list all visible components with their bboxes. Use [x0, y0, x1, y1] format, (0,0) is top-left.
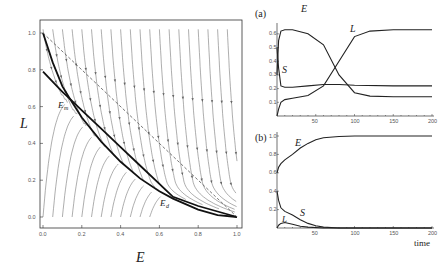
arrow-icon [55, 54, 57, 57]
streamline [101, 164, 118, 217]
y-tick-label: 0.4 [28, 140, 36, 146]
arrow-icon [221, 101, 223, 104]
arrow-icon [162, 93, 164, 96]
x-tick-label: 0.4 [117, 231, 125, 237]
arrow-icon [200, 178, 202, 181]
arrow-icon [65, 59, 67, 62]
streamline [208, 29, 236, 201]
x-tick-label: 0.2 [78, 231, 86, 237]
arrow-icon [171, 169, 173, 172]
panel-a-label: (a) [255, 8, 266, 20]
y-tick-label: 0.1 [269, 99, 277, 105]
panel-b-S-label: S [300, 207, 305, 218]
eq2-sub: d [166, 203, 170, 209]
panel-a-S-label: S [282, 64, 287, 75]
arrow-icon [230, 183, 232, 186]
time-axis-label: time [414, 238, 430, 248]
streamline [53, 116, 74, 217]
eq1-sub: m [64, 105, 69, 111]
x-tick-label: 0.0 [39, 231, 47, 237]
y-tick-label: 0.2 [28, 177, 36, 183]
streamline [198, 29, 236, 206]
streamline [62, 127, 82, 217]
arrow-icon [230, 101, 232, 104]
streamline [150, 197, 161, 217]
arrow-icon [191, 176, 193, 179]
eq2-label: E [159, 198, 166, 208]
streamline [72, 137, 91, 217]
panel-b-E-label: E [294, 137, 301, 148]
x-tick-label: 200 [428, 230, 437, 236]
vector-field [43, 29, 237, 217]
phase-xlabel: E [135, 250, 145, 265]
eq1-label: E [57, 100, 64, 110]
y-tick-label: 0.8 [269, 151, 277, 157]
y-tick-label: 0.3 [269, 71, 277, 77]
arrow-icon [128, 122, 130, 125]
series-S [277, 48, 432, 88]
x-tick-label: 50 [312, 230, 318, 236]
arrow-icon [79, 91, 81, 94]
x-tick-label: 100 [351, 118, 360, 124]
arrow-icon [152, 160, 154, 163]
arrow-icon [50, 67, 52, 70]
arrow-icon [182, 97, 184, 100]
arrow-icon [99, 105, 101, 108]
dashed-line [43, 33, 237, 217]
streamline [92, 156, 110, 217]
nullcline-curve [43, 72, 237, 217]
arrow-icon [109, 111, 111, 114]
panel-a-E-label: E [300, 3, 307, 14]
x-tick-label: 100 [351, 230, 360, 236]
figure: 0.00.00.20.20.40.40.60.60.80.81.01.0 L E… [0, 0, 448, 271]
phase-portrait: 0.00.00.20.20.40.40.60.60.80.81.01.0 L E… [19, 20, 242, 265]
y-tick-label: 1.0 [28, 30, 36, 36]
y-tick-label: 0.5 [269, 44, 277, 50]
y-tick-label: 0.2 [269, 85, 277, 91]
y-tick-label: 0.4 [269, 58, 277, 64]
x-tick-label: 1.0 [233, 231, 241, 237]
y-tick-label: 0.0 [28, 214, 36, 220]
nullclines [43, 33, 237, 217]
arrow-icon [191, 98, 193, 101]
streamline [227, 29, 237, 161]
x-tick-label: 50 [312, 118, 318, 124]
y-tick-label: 0.6 [269, 169, 277, 175]
streamline [179, 29, 235, 212]
panel-a: 501001502000.10.20.30.40.50.6 (a) E L S [255, 3, 437, 124]
equilibrium-label-d: E d [159, 198, 170, 209]
panel-b: 501001502000.20.40.60.81.0 (b) E L S tim… [255, 132, 437, 248]
x-tick-label: 200 [428, 118, 437, 124]
y-tick-label: 0.6 [28, 104, 36, 110]
y-tick-label: 0.8 [28, 67, 36, 73]
panel-a-curves [277, 30, 432, 116]
x-tick-label: 150 [389, 230, 398, 236]
arrow-icon [162, 164, 164, 167]
phase-ylabel: L [19, 116, 28, 131]
arrow-icon [181, 172, 183, 175]
y-tick-label: 1.0 [269, 133, 277, 139]
streamline [218, 29, 236, 193]
panel-b-label: (b) [255, 132, 267, 144]
x-tick-label: 0.6 [155, 231, 163, 237]
arrow-icon [85, 68, 87, 71]
arrow-icon [201, 99, 203, 102]
arrow-icon [220, 182, 222, 185]
streamline [111, 172, 127, 217]
y-tick-label: 0.2 [269, 206, 277, 212]
streamline [121, 179, 136, 217]
arrow-icon [211, 100, 213, 103]
arrow-icon [172, 95, 174, 98]
x-tick-label: 0.8 [194, 231, 202, 237]
series-L [277, 30, 432, 116]
arrow-icon [89, 98, 91, 101]
phase-axis-ticks: 0.00.00.20.20.40.40.60.60.80.81.01.0 [28, 30, 241, 237]
panel-b-L-label: L [281, 214, 287, 224]
arrow-icon [70, 83, 72, 86]
x-tick-label: 150 [389, 118, 398, 124]
y-tick-label: 0.4 [269, 188, 277, 194]
streamline [140, 192, 152, 217]
arrow-icon [118, 117, 120, 120]
panel-a-L-label: L [349, 23, 356, 34]
streamline [43, 104, 65, 217]
